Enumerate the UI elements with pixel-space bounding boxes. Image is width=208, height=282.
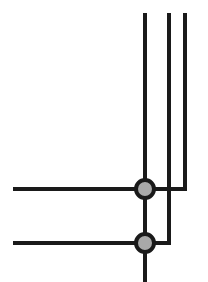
junction-lower-node-icon (136, 234, 154, 252)
junction-diagram (0, 0, 208, 282)
horizontal-lines (15, 189, 185, 243)
junction-upper-node-icon (136, 180, 154, 198)
